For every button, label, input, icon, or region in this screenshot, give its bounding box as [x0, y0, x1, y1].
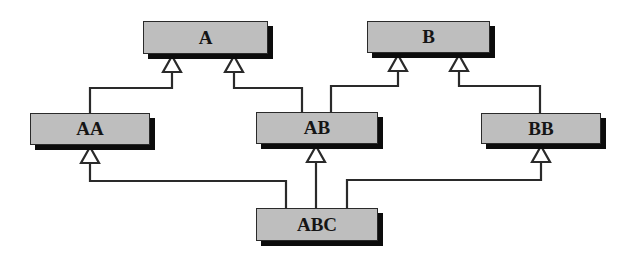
class-node-a: A: [143, 21, 268, 54]
inheritance-edge-ab-to-a: [225, 56, 302, 112]
class-node-ab: AB: [256, 112, 378, 144]
class-node-label: A: [199, 27, 213, 49]
connector-line: [331, 71, 398, 112]
inheritance-diagram: ABAAABBBABC: [0, 0, 637, 254]
inheritance-edge-abc-to-ab: [307, 146, 325, 208]
class-node-label: BB: [528, 118, 553, 140]
connector-line: [347, 162, 541, 208]
class-node-bb: BB: [481, 113, 601, 144]
class-node-label: AB: [304, 117, 330, 139]
connector-line: [459, 71, 540, 113]
connector-line: [90, 163, 286, 208]
class-node-label: AA: [76, 118, 103, 140]
class-node-label: B: [422, 26, 435, 48]
inheritance-edge-bb-to-b: [450, 55, 540, 113]
class-node-aa: AA: [30, 113, 150, 145]
inheritance-edge-aa-to-a: [90, 56, 181, 113]
connector-line: [234, 72, 302, 112]
class-node-b: B: [367, 21, 490, 53]
class-node-label: ABC: [297, 214, 337, 236]
connector-line: [90, 72, 172, 113]
inheritance-edge-abc-to-aa: [81, 147, 286, 208]
inheritance-edge-ab-to-b: [331, 55, 407, 112]
inheritance-edge-abc-to-bb: [347, 146, 550, 208]
class-node-abc: ABC: [256, 208, 378, 241]
